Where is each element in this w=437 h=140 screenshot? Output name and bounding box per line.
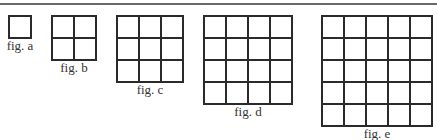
grid-cell <box>227 83 249 105</box>
grid-cell <box>389 17 411 39</box>
grid-cell <box>271 83 293 105</box>
grid-cell <box>345 17 367 39</box>
figure-label: fig. c <box>137 82 164 98</box>
grid-cell <box>323 17 345 39</box>
grid-cell <box>75 17 97 39</box>
grid-cell <box>227 39 249 61</box>
figure-label: fig. b <box>60 60 87 76</box>
grid-cell <box>249 61 271 83</box>
grid-cell <box>140 17 162 39</box>
grid-cell <box>367 17 389 39</box>
grid-cell <box>249 17 271 39</box>
grid-cell <box>345 83 367 105</box>
figure-label: fig. a <box>7 38 34 54</box>
grid-cell <box>75 39 97 61</box>
grid-cell <box>118 17 140 39</box>
grid-cell <box>205 61 227 83</box>
grid-cell <box>140 61 162 83</box>
grid-figc <box>116 15 184 83</box>
grid-cell <box>271 61 293 83</box>
grid-cell <box>249 39 271 61</box>
grid-figa <box>8 15 32 39</box>
grid-cell <box>367 105 389 127</box>
figure-label: fig. e <box>364 126 391 140</box>
grid-cell <box>411 39 433 61</box>
grid-cell <box>140 39 162 61</box>
grid-cell <box>411 17 433 39</box>
grid-cell <box>389 105 411 127</box>
grid-cell <box>118 61 140 83</box>
grid-cell <box>389 61 411 83</box>
grid-cell <box>205 83 227 105</box>
figure-label: fig. d <box>234 104 261 120</box>
grid-cell <box>227 17 249 39</box>
grid-cell <box>345 105 367 127</box>
grid-figd <box>203 15 293 105</box>
grid-cell <box>389 39 411 61</box>
grid-cell <box>323 105 345 127</box>
grid-figb <box>51 15 97 61</box>
grid-cell <box>323 83 345 105</box>
grid-cell <box>118 39 140 61</box>
grid-cell <box>323 39 345 61</box>
grid-cell <box>389 83 411 105</box>
grid-cell <box>162 17 184 39</box>
grid-cell <box>367 61 389 83</box>
grid-cell <box>162 61 184 83</box>
top-rule <box>0 3 437 5</box>
grid-cell <box>53 17 75 39</box>
grid-cell <box>367 39 389 61</box>
grid-cell <box>162 39 184 61</box>
grid-cell <box>271 39 293 61</box>
grid-cell <box>367 83 389 105</box>
grid-cell <box>53 39 75 61</box>
grid-cell <box>227 61 249 83</box>
grid-cell <box>249 83 271 105</box>
grid-cell <box>345 61 367 83</box>
grid-cell <box>345 39 367 61</box>
grid-cell <box>411 105 433 127</box>
grid-cell <box>411 83 433 105</box>
grid-cell <box>271 17 293 39</box>
grid-cell <box>205 17 227 39</box>
grid-cell <box>205 39 227 61</box>
grid-cell <box>323 61 345 83</box>
grid-fige <box>321 15 433 127</box>
grid-cell <box>10 17 32 39</box>
grid-cell <box>411 61 433 83</box>
